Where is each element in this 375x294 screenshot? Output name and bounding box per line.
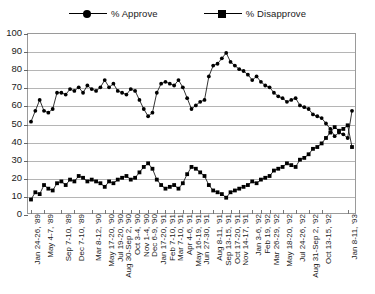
legend-line-approve bbox=[69, 9, 107, 18]
data-point-square bbox=[333, 125, 337, 129]
data-point-square bbox=[120, 176, 124, 180]
data-point-circle bbox=[29, 120, 33, 124]
data-point-circle bbox=[333, 134, 337, 138]
data-point-circle bbox=[51, 107, 55, 111]
data-point-square bbox=[185, 172, 189, 176]
data-point-square bbox=[172, 183, 176, 187]
x-tick-label: Mar 26-29, '92 bbox=[273, 214, 281, 265]
data-point-circle bbox=[138, 98, 142, 102]
x-tick-label: Feb 19, '92 bbox=[264, 214, 272, 254]
data-point-circle bbox=[255, 75, 259, 79]
y-axis-labels: 0102030405060708090100 bbox=[0, 33, 25, 214]
x-tick-label: May 4-7, '89 bbox=[47, 214, 55, 258]
legend-item-disapprove: % Disapprove bbox=[204, 8, 306, 19]
data-point-square bbox=[350, 145, 354, 149]
data-point-circle bbox=[194, 104, 198, 108]
data-point-circle bbox=[272, 91, 276, 95]
data-point-circle bbox=[224, 51, 228, 55]
y-tick-label: 10 bbox=[11, 191, 22, 201]
data-point-square bbox=[64, 183, 68, 187]
x-tick-label: Dec 7-10, '89 bbox=[78, 214, 86, 261]
data-point-square bbox=[55, 181, 59, 185]
data-point-circle bbox=[77, 85, 81, 89]
data-point-square bbox=[181, 181, 185, 185]
series-disapprove bbox=[29, 123, 354, 201]
data-point-circle bbox=[350, 109, 354, 113]
x-tick-label: Sep 13-15, '91 bbox=[225, 214, 233, 266]
data-point-square bbox=[68, 178, 72, 182]
data-point-square bbox=[207, 183, 211, 187]
data-point-square bbox=[337, 129, 341, 133]
data-point-circle bbox=[168, 82, 172, 86]
data-point-circle bbox=[85, 84, 89, 88]
data-point-circle bbox=[164, 80, 168, 84]
y-tick-label: 80 bbox=[11, 64, 22, 74]
x-tick-mark bbox=[183, 210, 184, 214]
data-point-circle bbox=[216, 62, 220, 66]
x-tick-mark bbox=[157, 210, 158, 214]
data-point-square bbox=[85, 180, 89, 184]
data-point-square bbox=[233, 189, 237, 193]
data-point-square bbox=[72, 180, 76, 184]
data-point-square bbox=[194, 167, 198, 171]
data-point-square bbox=[242, 185, 246, 189]
data-point-square bbox=[281, 165, 285, 169]
approval-rating-chart: % Approve % Disapprove 01020304050607080… bbox=[0, 0, 375, 294]
data-point-circle bbox=[324, 122, 328, 126]
data-point-circle bbox=[72, 89, 76, 93]
data-point-circle bbox=[211, 64, 215, 68]
data-point-circle bbox=[315, 114, 319, 118]
x-tick-label: Aug 31-Sep 2, '92 bbox=[312, 214, 320, 278]
data-point-circle bbox=[33, 109, 37, 113]
data-point-square bbox=[289, 163, 293, 167]
data-point-square bbox=[190, 165, 194, 169]
data-point-square bbox=[255, 181, 259, 185]
data-point-square bbox=[94, 180, 98, 184]
data-point-square bbox=[211, 189, 215, 193]
data-point-circle bbox=[259, 80, 263, 84]
data-point-square bbox=[29, 198, 33, 202]
data-point-square bbox=[198, 170, 202, 174]
x-tick-label: Oct 13-15, '92 bbox=[325, 214, 333, 264]
data-point-square bbox=[276, 167, 280, 171]
data-point-circle bbox=[64, 93, 68, 97]
data-point-circle bbox=[281, 96, 285, 100]
data-point-square bbox=[164, 187, 168, 191]
data-point-square bbox=[155, 178, 159, 182]
series-line bbox=[31, 125, 352, 199]
data-point-square bbox=[203, 174, 207, 178]
data-point-square bbox=[33, 190, 37, 194]
data-point-circle bbox=[142, 107, 146, 111]
series-layer bbox=[27, 33, 356, 214]
x-tick-label: Jun 27-30, '91 bbox=[203, 214, 211, 264]
legend-label-disapprove: % Disapprove bbox=[246, 8, 306, 19]
data-point-circle bbox=[99, 85, 103, 89]
data-point-circle bbox=[233, 64, 237, 68]
x-tick-mark bbox=[122, 210, 123, 214]
data-point-square bbox=[268, 174, 272, 178]
data-point-square bbox=[133, 176, 137, 180]
x-tick-mark bbox=[261, 210, 262, 214]
data-point-square bbox=[46, 187, 50, 191]
data-point-square bbox=[259, 178, 263, 182]
chart-legend: % Approve % Disapprove bbox=[0, 4, 375, 22]
data-point-square bbox=[246, 183, 250, 187]
data-point-circle bbox=[203, 98, 207, 102]
y-tick-label: 100 bbox=[6, 28, 22, 38]
data-point-circle bbox=[177, 78, 181, 82]
data-point-square bbox=[125, 174, 129, 178]
data-point-circle bbox=[311, 113, 315, 117]
data-point-square bbox=[229, 190, 233, 194]
x-tick-label: Nov 14-17, '91 bbox=[242, 214, 250, 266]
x-tick-mark bbox=[348, 210, 349, 214]
data-point-circle bbox=[198, 100, 202, 104]
data-point-circle bbox=[346, 136, 350, 140]
data-point-square bbox=[38, 192, 42, 196]
data-point-square bbox=[298, 158, 302, 162]
x-tick-label: Jul 24-26, '92 bbox=[299, 214, 307, 262]
data-point-circle bbox=[151, 111, 155, 115]
data-point-circle bbox=[229, 60, 233, 64]
y-tick-label: 0 bbox=[17, 209, 22, 219]
data-point-circle bbox=[246, 73, 250, 77]
data-point-circle bbox=[46, 111, 50, 115]
